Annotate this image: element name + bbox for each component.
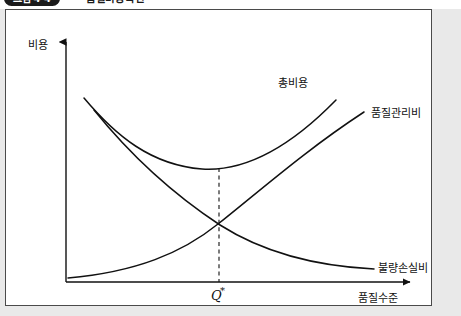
- figure-frame: 비용 품질수준 총비용 품질관리비 불량손실비 Q *: [5, 9, 432, 306]
- failure-cost-label: 불량손실비: [378, 262, 428, 275]
- y-axis-label: 비용: [28, 39, 48, 52]
- figure-title: 품질비용곡선: [86, 0, 144, 6]
- quality-cost-chart: 비용 품질수준 총비용 품질관리비 불량손실비 Q *: [6, 10, 433, 307]
- figure-header: 그림 4-4 품질비용곡선: [0, 0, 461, 9]
- optimum-annotation: Q *: [211, 285, 225, 303]
- optimum-superscript: *: [220, 285, 225, 296]
- x-axis-label: 품질수준: [358, 292, 398, 305]
- control-cost-label: 품질관리비: [371, 107, 421, 120]
- total-cost-label: 총비용: [278, 77, 308, 90]
- figure-number-badge: 그림 4-4: [4, 0, 60, 6]
- control-cost-curve: [68, 112, 364, 278]
